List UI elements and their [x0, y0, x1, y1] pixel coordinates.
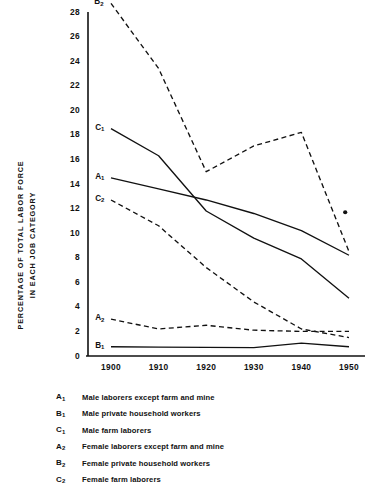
x-axis-tick-label: 1910 — [139, 362, 179, 372]
curve-label-A2: A2 — [95, 313, 104, 322]
curve-label-A1: A1 — [95, 172, 104, 181]
legend-row: A2Female laborers except farm and mine — [56, 442, 356, 459]
legend-description: Female farm laborers — [82, 475, 161, 484]
legend-row: B2Female private household workers — [56, 458, 356, 475]
x-axis-tick-label: 1930 — [234, 362, 274, 372]
curve-label-B2: B2 — [94, 0, 103, 6]
y-axis-tick-label: 16 — [54, 154, 80, 164]
x-axis-tick-label: 1900 — [91, 362, 131, 372]
x-axis-tick-label: 1950 — [329, 362, 369, 372]
legend-description: Male laborers except farm and mine — [82, 393, 215, 402]
legend: A1Male laborers except farm and mineB1Ma… — [56, 392, 356, 491]
curve-label-C1: C1 — [95, 123, 104, 132]
legend-description: Male private household workers — [82, 409, 201, 418]
legend-key: C2 — [56, 475, 78, 484]
legend-key: B2 — [56, 458, 78, 467]
y-axis-tick-label: 12 — [54, 203, 80, 213]
legend-key: B1 — [56, 409, 78, 418]
curve-label-C2: C2 — [95, 194, 104, 203]
y-axis-tick-label: 8 — [54, 252, 80, 262]
legend-description: Male farm laborers — [82, 426, 151, 435]
series-line-B2 — [111, 3, 349, 251]
y-axis-tick-label: 28 — [54, 7, 80, 17]
legend-row: B1Male private household workers — [56, 409, 356, 426]
legend-description: Female private household workers — [82, 459, 210, 468]
curve-label-B1: B1 — [95, 341, 104, 350]
y-axis-tick-label: 4 — [54, 301, 80, 311]
y-axis-tick-label: 2 — [54, 326, 80, 336]
y-axis-tick-label: 26 — [54, 31, 80, 41]
y-axis-tick-label: 18 — [54, 129, 80, 139]
y-axis-tick-label: 24 — [54, 56, 80, 66]
legend-row: C1Male farm laborers — [56, 425, 356, 442]
asterisk-marker — [343, 210, 347, 214]
y-axis-tick-label: 0 — [54, 351, 80, 361]
legend-key: A2 — [56, 442, 78, 451]
series-line-B1 — [111, 343, 349, 348]
series-line-A1 — [111, 178, 349, 255]
y-axis-tick-label: 22 — [54, 80, 80, 90]
series-line-C1 — [111, 129, 349, 299]
series-line-A2 — [111, 319, 349, 331]
legend-row: C2Female farm laborers — [56, 475, 356, 492]
legend-key: A1 — [56, 392, 78, 401]
y-axis-tick-label: 10 — [54, 228, 80, 238]
y-axis-tick-label: 6 — [54, 277, 80, 287]
y-axis-tick-label: 20 — [54, 105, 80, 115]
legend-description: Female laborers except farm and mine — [82, 442, 224, 451]
x-axis-tick-label: 1920 — [186, 362, 226, 372]
y-axis-tick-label: 14 — [54, 179, 80, 189]
x-axis-tick-label: 1940 — [281, 362, 321, 372]
legend-key: C1 — [56, 425, 78, 434]
legend-row: A1Male laborers except farm and mine — [56, 392, 356, 409]
